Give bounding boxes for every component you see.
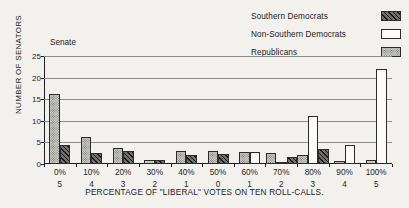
chart-legend: Southern Democrats Non-Southern Democrat… [251, 9, 401, 63]
legend-label: Southern Democrats [251, 12, 377, 21]
x-axis-tick-label-percent: 60% [241, 168, 257, 177]
bar [318, 149, 329, 164]
x-axis-tick-label-percent: 90% [336, 168, 352, 177]
y-axis-tick-label: 10 [32, 116, 41, 125]
x-axis-tick-mark [360, 164, 361, 167]
panel-title: Senate [50, 38, 76, 47]
x-axis-tick-mark [107, 164, 108, 167]
legend-label: Non-Southern Democrats [251, 30, 377, 39]
x-axis-tick: 30%2 [147, 164, 163, 189]
bar [218, 154, 229, 164]
x-axis-tick: 100%5 [366, 164, 387, 189]
gridline [44, 142, 392, 143]
x-axis-tick-label-percent: 30% [147, 168, 163, 177]
bar [266, 153, 277, 164]
plot-area: 05101520250%510%420%330%240%150%060%170%… [44, 56, 392, 164]
y-axis-tick-mark [41, 99, 44, 100]
x-axis-tick-label-percent: 0% [54, 168, 66, 177]
x-axis-tick: 10%4 [83, 164, 99, 189]
gridline [44, 56, 392, 57]
x-axis-tick: 90%4 [336, 164, 352, 189]
x-axis-tick-label-percent: 100% [366, 168, 387, 177]
bar [376, 69, 387, 164]
x-axis-tick-label-percent: 20% [115, 168, 131, 177]
chart-root: Southern Democrats Non-Southern Democrat… [0, 0, 409, 208]
y-axis-tick-mark [41, 121, 44, 122]
bar [308, 116, 319, 164]
gridline [44, 78, 392, 79]
bar [287, 157, 298, 164]
bar [113, 148, 124, 164]
x-axis-tick-label-percent: 80% [305, 168, 321, 177]
bar [250, 152, 261, 164]
bar [239, 152, 250, 164]
y-axis-tick-label: 15 [32, 95, 41, 104]
legend-item-non-southern-democrats: Non-Southern Democrats [251, 27, 401, 41]
bar [345, 145, 356, 164]
y-axis-tick-mark [41, 56, 44, 57]
x-axis-tick: 20%3 [115, 164, 131, 189]
x-axis-tick-label-percent: 10% [83, 168, 99, 177]
legend-swatch-empty-icon [381, 29, 401, 39]
x-axis-tick: 40%1 [178, 164, 194, 189]
y-axis-tick-mark [41, 78, 44, 79]
x-axis-tick: 0%5 [54, 164, 66, 189]
x-axis-tick-mark [139, 164, 140, 167]
bar [81, 137, 92, 164]
legend-swatch-hatch-icon [381, 11, 401, 21]
x-axis-tick: 60%1 [241, 164, 257, 189]
x-axis-tick: 80%3 [305, 164, 321, 189]
legend-item-southern-democrats: Southern Democrats [251, 9, 401, 23]
x-axis-tick-mark [297, 164, 298, 167]
bar [123, 151, 134, 164]
x-axis-tick-mark [202, 164, 203, 167]
x-axis-tick-mark [44, 164, 45, 167]
bar [176, 151, 187, 164]
x-axis-label: PERCENTAGE OF "LIBERAL" VOTES ON TEN ROL… [0, 188, 409, 197]
bar [49, 94, 60, 164]
bar [297, 155, 308, 164]
x-axis-tick-mark [265, 164, 266, 167]
y-axis-line [44, 56, 45, 164]
bar [186, 155, 197, 164]
y-axis-tick-label: 20 [32, 73, 41, 82]
x-axis-tick-mark [329, 164, 330, 167]
x-axis-tick: 70%2 [273, 164, 289, 189]
x-axis-tick: 50%0 [210, 164, 226, 189]
y-axis-label: NUMBER OF SENATORS [14, 5, 23, 125]
x-axis-tick-label-percent: 50% [210, 168, 226, 177]
gridline [44, 121, 392, 122]
x-axis-tick-mark [234, 164, 235, 167]
y-axis-tick-mark [41, 142, 44, 143]
x-axis-tick-mark [392, 164, 393, 167]
bar [208, 151, 219, 164]
bar [60, 145, 71, 164]
x-axis-tick-label-percent: 70% [273, 168, 289, 177]
y-axis-tick-label: 25 [32, 52, 41, 61]
x-axis-tick-mark [76, 164, 77, 167]
x-axis-tick-label-percent: 40% [178, 168, 194, 177]
bar [91, 153, 102, 164]
x-axis-tick-mark [171, 164, 172, 167]
gridline [44, 99, 392, 100]
